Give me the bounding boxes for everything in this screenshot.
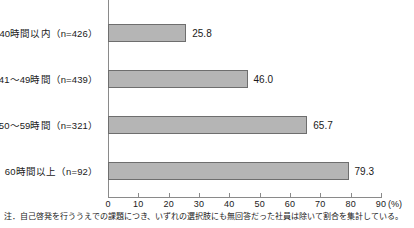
x-tick-mark [229,193,230,198]
bar-value-label: 65.7 [313,120,332,131]
x-tick-label: 30 [194,199,204,209]
x-tick-mark [320,193,321,198]
bar-value-label: 25.8 [192,28,211,39]
x-tick-label: 40 [224,199,234,209]
x-tick-mark [108,193,109,198]
x-tick-label: 20 [163,199,173,209]
bar-row: 40時間以内（n=426）25.8 [0,10,414,56]
x-tick-mark [138,193,139,198]
bar [108,116,307,134]
category-label: 60時間以上（n=92） [5,164,98,178]
x-axis-unit-label: (%) [388,199,402,209]
x-tick-label: 0 [105,199,110,209]
chart-footnote: 注．自己啓発を行ううえでの課題につき、いずれの選択肢にも無回答だった社員は除いて… [4,212,403,222]
x-tick-mark [290,193,291,198]
x-tick-mark [169,193,170,198]
bar-row: 50〜59時間（n=321）65.7 [0,102,414,148]
x-tick-label: 50 [254,199,264,209]
category-label: 50〜59時間（n=321） [0,118,98,132]
x-tick-label: 70 [315,199,325,209]
x-tick-mark [381,193,382,198]
x-tick-mark [199,193,200,198]
x-tick-label: 90 [376,199,386,209]
bar-row: 60時間以上（n=92）79.3 [0,148,414,194]
x-axis-line [108,197,382,198]
bar-value-label: 46.0 [254,74,273,85]
bar [108,162,349,180]
bar-row: 41〜49時間（n=439）46.0 [0,56,414,102]
x-tick-mark [351,193,352,198]
x-tick-mark [260,193,261,198]
category-label: 40時間以内（n=426） [0,26,98,40]
bar [108,70,248,88]
x-tick-label: 10 [133,199,143,209]
plot-area: 40時間以内（n=426）25.841〜49時間（n=439）46.050〜59… [0,0,414,198]
bar-value-label: 79.3 [355,166,374,177]
bar [108,24,186,42]
category-label: 41〜49時間（n=439） [0,72,98,86]
x-tick-label: 60 [285,199,295,209]
x-tick-label: 80 [345,199,355,209]
bar-chart: 40時間以内（n=426）25.841〜49時間（n=439）46.050〜59… [0,0,414,228]
